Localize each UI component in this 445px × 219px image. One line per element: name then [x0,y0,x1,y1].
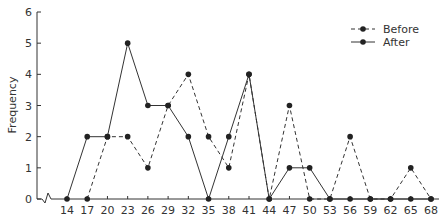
data-point [105,134,111,140]
x-tick-label: 14 [60,204,74,217]
data-point [125,40,131,46]
data-point [408,165,414,171]
legend-label-after: After [383,36,410,49]
data-point [347,134,353,140]
x-tick-label: 44 [262,204,276,217]
x-tick-label: 35 [202,204,216,217]
y-tick-label: 0 [25,193,32,206]
x-tick-label: 23 [121,204,135,217]
data-point [368,196,374,202]
data-point [408,196,414,202]
data-point [307,196,313,202]
data-point [64,196,70,202]
marker-icon [360,26,366,32]
x-tick-label: 26 [141,204,155,217]
data-point [287,165,293,171]
data-point [327,196,333,202]
x-tick-label: 29 [161,204,175,217]
series-after [64,40,434,201]
x-tick-label: 56 [343,204,357,217]
legend: Before After [351,23,419,49]
x-tick-label: 20 [100,204,114,217]
x-tick-label: 47 [282,204,296,217]
x-tick-label: 32 [181,204,195,217]
data-point [226,134,232,140]
y-axis-ticks: 0123456 [25,6,41,206]
y-tick-label: 5 [25,37,32,50]
marker-icon [360,39,366,45]
data-point [145,103,151,109]
x-tick-label: 50 [303,204,317,217]
x-axis-line-with-break [37,193,439,203]
x-tick-label: 53 [323,204,337,217]
data-point [125,134,131,140]
x-tick-label: 65 [404,204,418,217]
y-tick-label: 2 [25,131,32,144]
data-point [84,134,90,140]
x-tick-label: 68 [424,204,438,217]
y-axis-title: Frequency [6,76,19,133]
x-tick-label: 62 [384,204,398,217]
data-point [206,196,212,202]
data-point [226,165,232,171]
data-point [186,134,192,140]
x-tick-label: 41 [242,204,256,217]
data-point [165,103,171,109]
legend-item-before: Before [351,23,419,36]
data-point [347,196,353,202]
data-point [206,134,212,140]
x-tick-label: 59 [363,204,377,217]
y-tick-label: 3 [25,100,32,113]
data-point [307,165,313,171]
data-point [287,103,293,109]
data-point [428,196,434,202]
series-layer [64,40,434,201]
x-tick-label: 17 [80,204,94,217]
y-tick-label: 6 [25,6,32,19]
legend-label-before: Before [383,23,419,36]
frequency-line-chart: 0123456 14172023262932353841444750535659… [0,0,445,219]
series-line [67,43,431,199]
legend-item-after: After [351,36,410,49]
data-point [186,72,192,78]
data-point [388,196,394,202]
y-tick-label: 1 [25,162,32,175]
data-point [246,72,252,78]
y-tick-label: 4 [25,68,32,81]
data-point [145,165,151,171]
data-point [266,196,272,202]
x-tick-label: 38 [222,204,236,217]
data-point [84,196,90,202]
